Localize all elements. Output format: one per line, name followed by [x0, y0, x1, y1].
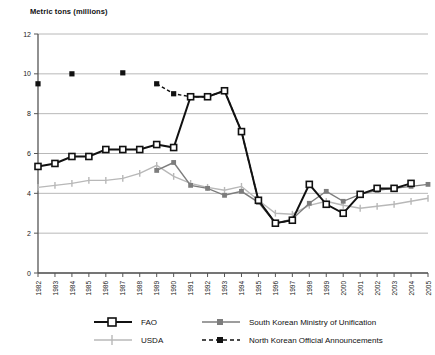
- y-tick-label: 12: [23, 31, 31, 38]
- legend-label-mou: South Korean Ministry of Unification: [249, 318, 376, 327]
- x-tick-label: 2005: [425, 281, 432, 296]
- legend-label-usda: USDA: [141, 336, 163, 345]
- legend-item-nk: North Korean Official Announcements: [200, 334, 383, 346]
- x-tick-label: 1989: [153, 281, 160, 296]
- x-tick-label: 1996: [272, 281, 279, 296]
- legend-label-nk: North Korean Official Announcements: [249, 336, 383, 345]
- y-axis-ticks: 024681012: [23, 31, 38, 277]
- x-tick-label: 1988: [136, 281, 143, 296]
- x-tick-label: 2001: [357, 281, 364, 296]
- legend-label-fao: FAO: [141, 318, 157, 327]
- x-tick-label: 1986: [102, 281, 109, 296]
- series-usda: [38, 162, 428, 218]
- y-tick-label: 6: [27, 150, 31, 157]
- chart-legend: FAO South Korean Ministry of Unification…: [0, 312, 435, 354]
- x-tick-label: 1998: [306, 281, 313, 296]
- x-tick-label: 1984: [69, 281, 76, 296]
- legend-item-usda: USDA: [92, 334, 163, 346]
- legend-item-mou: South Korean Ministry of Unification: [200, 316, 376, 328]
- x-tick-label: 2000: [340, 281, 347, 296]
- y-tick-label: 0: [27, 270, 31, 277]
- legend-swatch-mou: [200, 316, 242, 328]
- data-series-layer: [35, 70, 430, 226]
- x-tick-label: 2003: [391, 281, 398, 296]
- x-tick-label: 1982: [35, 281, 42, 296]
- x-tick-label: 1994: [238, 281, 245, 296]
- x-tick-label: 1987: [119, 281, 126, 296]
- y-tick-label: 8: [27, 110, 31, 117]
- x-tick-label: 1999: [323, 281, 330, 296]
- series-fao: [35, 88, 414, 226]
- plot-area: 024681012 198219831984198519861987198819…: [0, 0, 435, 312]
- chart-container: Metric tons (millions) 024681012 1982198…: [0, 0, 435, 355]
- legend-swatch-fao: [92, 316, 134, 328]
- legend-item-fao: FAO: [92, 316, 157, 328]
- y-tick-label: 10: [23, 70, 31, 77]
- legend-swatch-nk: [200, 334, 242, 346]
- x-tick-label: 1985: [85, 281, 92, 296]
- x-tick-label: 1992: [204, 281, 211, 296]
- x-tick-label: 1993: [221, 281, 228, 296]
- x-tick-label: 1997: [289, 281, 296, 296]
- y-tick-label: 4: [27, 190, 31, 197]
- x-tick-label: 1991: [187, 281, 194, 296]
- legend-swatch-usda: [92, 334, 134, 346]
- x-tick-label: 1990: [170, 281, 177, 296]
- x-tick-label: 1995: [255, 281, 262, 296]
- x-axis-ticks: 1982198319841985198619871988198919901991…: [35, 273, 432, 295]
- y-tick-label: 2: [27, 230, 31, 237]
- x-tick-label: 1983: [52, 281, 59, 296]
- x-tick-label: 2004: [408, 281, 415, 296]
- x-tick-label: 2002: [374, 281, 381, 296]
